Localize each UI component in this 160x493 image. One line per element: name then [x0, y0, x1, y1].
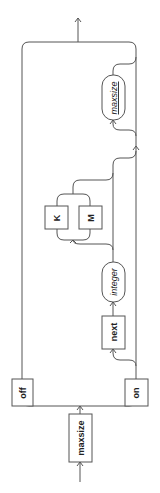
maxsize-pill-exit-line	[113, 57, 136, 75]
maxsize-keyword-label: maxsize	[76, 420, 86, 455]
on-to-next-line	[113, 349, 136, 366]
unit-group-top-rail	[57, 194, 90, 206]
maxsize-nonterminal-label: maxsize	[109, 81, 119, 114]
m-keyword-label: M	[86, 214, 96, 222]
railroad-diagram: maxsize off on next integer K M	[0, 0, 160, 493]
off-keyword-label: off	[18, 386, 28, 398]
bottom-split-bar	[22, 399, 136, 406]
unit-group-join-line	[73, 173, 113, 194]
merge-to-right-line	[113, 151, 136, 165]
to-maxsize-pill-line	[113, 120, 136, 136]
integer-nonterminal-label: integer	[109, 267, 119, 296]
k-keyword-label: K	[52, 214, 62, 221]
on-keyword-label: on	[131, 388, 141, 399]
to-unit-group-line	[73, 240, 113, 250]
next-keyword-label: next	[109, 323, 119, 342]
